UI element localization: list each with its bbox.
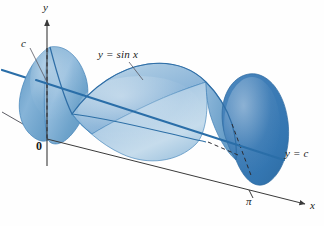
origin-label: 0 [36,140,42,152]
c-intercept-label: c [21,38,26,49]
sine-curve-label: y = sin x [98,49,138,60]
x-axis-label: x [310,200,315,211]
surface-lobe-2 [72,63,207,161]
y-axis-label: y [43,2,48,13]
surface-lobe-3 [206,74,289,185]
figure-container: y x c 0 π y = sin x y = c [0,0,324,226]
plane-label: y = c [285,148,309,159]
pi-tick-label: π [246,196,252,207]
figure-illustration [0,0,324,226]
